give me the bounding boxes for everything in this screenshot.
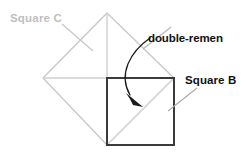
- square-b-diagonal-line: [107, 78, 174, 145]
- double-remen-label: double-remen: [148, 33, 223, 45]
- square-b-leader-line: [168, 88, 197, 111]
- square-b-label: Square B: [185, 75, 236, 87]
- square-c-label: Square C: [10, 13, 62, 25]
- double-remen-arrowhead: [126, 93, 143, 107]
- square-c-leader-line: [62, 24, 93, 51]
- geometry-figure: Square C double-remen Square B: [0, 0, 246, 159]
